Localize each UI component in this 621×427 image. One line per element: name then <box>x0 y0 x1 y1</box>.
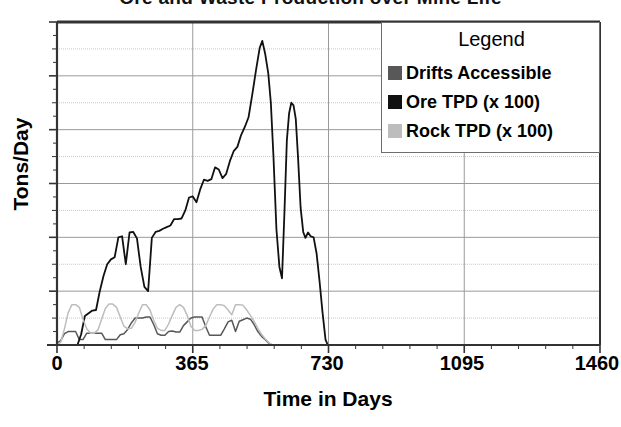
x-tick-label-730: 730 <box>310 352 343 375</box>
x-axis-title: Time in Days <box>55 387 601 411</box>
legend-label-drifts-accessible: Drifts Accessible <box>406 64 551 82</box>
legend-label-ore-tpd: Ore TPD (x 100) <box>406 93 540 111</box>
x-tick-label-365: 365 <box>175 352 208 375</box>
x-tick-label-0: 0 <box>51 352 62 375</box>
legend-title: Legend <box>382 28 601 51</box>
legend-item-rock-tpd[interactable]: Rock TPD (x 100) <box>388 122 553 140</box>
x-tick-label-1095: 1095 <box>440 352 485 375</box>
legend-swatch-icon-ore-tpd <box>388 95 402 109</box>
legend-item-ore-tpd[interactable]: Ore TPD (x 100) <box>388 93 540 111</box>
legend-swatch-icon-rock-tpd <box>388 124 402 138</box>
y-axis-title: Tons/Day <box>9 99 33 229</box>
legend: Legend Drifts Accessible Ore TPD (x 100)… <box>381 22 600 153</box>
chart-title: Ore and Waste Production over Mine Life <box>0 0 621 9</box>
legend-swatch-icon-drifts-accessible <box>388 66 402 80</box>
legend-item-drifts-accessible[interactable]: Drifts Accessible <box>388 64 551 82</box>
x-tick-label-1460: 1460 <box>575 352 620 375</box>
chart-figure: Ore and Waste Production over Mine Life … <box>0 0 621 427</box>
legend-label-rock-tpd: Rock TPD (x 100) <box>406 122 553 140</box>
